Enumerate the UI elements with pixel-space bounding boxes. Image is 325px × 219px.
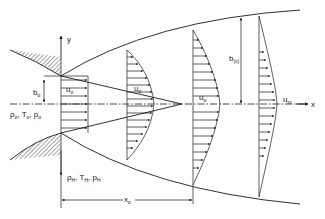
core-velocity-label-1: uo bbox=[134, 84, 141, 94]
free-jet-diagram: y x uo bo ρo, To, po ρH, TH, pH bbox=[0, 0, 325, 219]
velocity-profile-3 bbox=[259, 16, 277, 197]
y-axis-label: y bbox=[67, 35, 71, 44]
nozzle-half-width-dimension bbox=[44, 76, 61, 102]
x-axis-label: x bbox=[311, 100, 315, 109]
nozzle-lower-wall bbox=[10, 133, 61, 160]
velocity-profile-2 bbox=[193, 30, 220, 185]
ambient-state-label: ρH, TH, pH bbox=[67, 173, 101, 183]
centerline-velocity-label: um bbox=[283, 95, 292, 105]
jet-half-width-label: b(x) bbox=[229, 54, 240, 64]
core-length-label: xo bbox=[124, 195, 131, 205]
velocity-profile-1 bbox=[127, 50, 154, 160]
jet-outer-boundary-lower bbox=[61, 133, 300, 204]
nozzle-half-width-label: bo bbox=[33, 88, 40, 98]
jet-state-label: ρo, To, po bbox=[10, 110, 41, 120]
nozzle-upper-wall bbox=[10, 50, 61, 76]
core-boundary-lower bbox=[61, 104, 182, 133]
jet-outer-boundary-upper bbox=[61, 10, 300, 76]
core-velocity-label-2: uo bbox=[199, 93, 206, 103]
exit-velocity-label: uo bbox=[66, 85, 73, 95]
